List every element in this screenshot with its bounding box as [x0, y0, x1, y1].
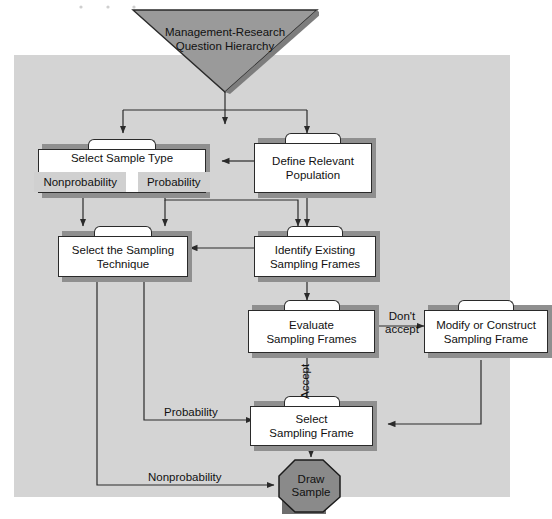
node-body: Modify or Construct Sampling Frame [424, 310, 548, 353]
node-body: Select Sampling Frame [250, 406, 373, 446]
edge-label-accept: Accept [299, 364, 312, 399]
sample-type-options: Nonprobability Probability [34, 172, 209, 192]
node-label: Select Sample Type [71, 151, 173, 165]
start-label: Management-Research Question Hierarchy [131, 25, 319, 53]
node-label: Define Relevant Population [272, 154, 354, 182]
node-label: Modify or Construct Sampling Frame [436, 318, 536, 346]
node-label: Select the Sampling Technique [72, 243, 174, 271]
node-label: Evaluate Sampling Frames [266, 318, 356, 346]
node-label: Identify Existing Sampling Frames [270, 243, 360, 271]
node-body: Identify Existing Sampling Frames [254, 236, 376, 277]
node-define-relevant-population[interactable]: Define Relevant Population [254, 133, 372, 193]
node-body: Define Relevant Population [254, 143, 372, 193]
chip-probability[interactable]: Probability [138, 172, 210, 192]
node-select-sample-type[interactable]: Select Sample Type Nonprobability Probab… [38, 139, 206, 193]
node-modify-or-construct-sampling-frame[interactable]: Modify or Construct Sampling Frame [424, 300, 548, 353]
node-evaluate-sampling-frames[interactable]: Evaluate Sampling Frames [248, 300, 375, 353]
chip-nonprobability[interactable]: Nonprobability [34, 172, 126, 192]
end-label: Draw Sample [276, 473, 346, 499]
node-body: Select Sample Type Nonprobability Probab… [38, 149, 206, 193]
node-select-sampling-frame[interactable]: Select Sampling Frame [250, 396, 373, 446]
node-body: Evaluate Sampling Frames [248, 310, 375, 353]
node-select-sampling-technique[interactable]: Select the Sampling Technique [58, 226, 188, 277]
edge-label-probability: Probability [164, 406, 218, 419]
edge-label-dont-accept: Don't accept [379, 310, 425, 336]
start-shape-triangle: Management-Research Question Hierarchy [131, 8, 319, 94]
node-label: Select Sampling Frame [269, 412, 353, 440]
figure-canvas: Management-Research Question Hierarchy S… [0, 0, 552, 519]
end-shape-octagon: Draw Sample [276, 458, 346, 516]
node-body: Select the Sampling Technique [58, 236, 188, 277]
node-identify-existing-sampling-frames[interactable]: Identify Existing Sampling Frames [254, 226, 376, 277]
edge-label-nonprobability: Nonprobability [148, 471, 222, 484]
